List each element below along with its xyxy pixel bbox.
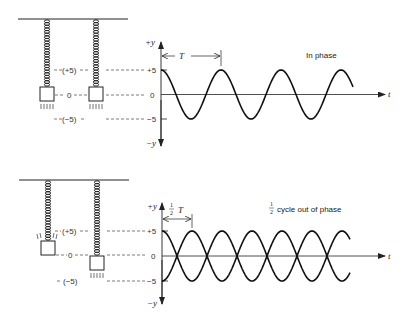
motion-lines-down	[41, 104, 102, 109]
spring-2	[94, 181, 99, 255]
caption-frac-num: 1	[270, 201, 273, 207]
caption-frac-den: 2	[270, 209, 273, 215]
spring-2	[93, 20, 98, 86]
tick-minus5: −5	[147, 277, 157, 286]
half-period-frac-num: 1	[170, 202, 173, 208]
spring-1	[44, 20, 49, 86]
tick-minus5: −5	[147, 115, 157, 124]
mass-2	[90, 256, 104, 270]
tick-zero: 0	[150, 91, 155, 100]
t-label: t	[388, 251, 391, 261]
tick-plus5: +5	[147, 66, 157, 75]
mass-label-zero: 0	[68, 251, 73, 260]
mass-label-minus5: (−5)	[63, 277, 78, 286]
mass-2	[89, 87, 103, 101]
tick-plus5: +5	[147, 227, 157, 236]
mass-label-minus5: (−5)	[62, 115, 77, 124]
y-neg-label: −y	[146, 138, 156, 148]
motion-lines-up	[37, 233, 57, 239]
t-label: t	[388, 89, 391, 99]
mass-label-zero: 0	[67, 91, 72, 100]
panel-out-of-phase: (+5) 0 (−5) +y −y t +5 0 −5 1 2 T 1 2 cy…	[19, 180, 391, 308]
y-neg-label: −y	[147, 298, 157, 308]
motion-lines-down	[91, 273, 103, 278]
half-period-frac-den: 2	[170, 210, 173, 216]
tick-zero: 0	[151, 252, 156, 261]
y-pos-label: +y	[145, 37, 155, 47]
mass-1	[40, 87, 54, 101]
mass-1	[41, 241, 55, 255]
spring-1	[45, 181, 50, 240]
mass-label-plus5: (+5)	[62, 227, 77, 236]
half-period-label: T	[178, 205, 184, 215]
mass-label-plus5: (+5)	[62, 66, 77, 75]
caption-out-of-phase: cycle out of phase	[277, 205, 342, 214]
panel-in-phase: (+5) 0 (−5) +y −y t +5 0 −5 T In phase	[18, 19, 391, 148]
period-label: T	[179, 51, 185, 61]
oscillation-phase-diagram: (+5) 0 (−5) +y −y t +5 0 −5 T In phase	[0, 0, 413, 325]
caption-in-phase: In phase	[306, 51, 337, 60]
y-pos-label: +y	[147, 201, 157, 211]
